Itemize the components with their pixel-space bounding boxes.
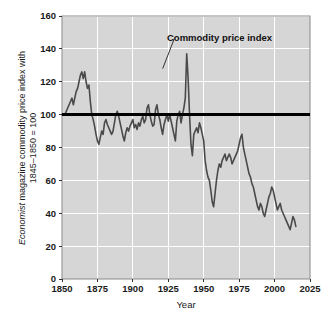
y-axis-title-italic: Economist — [17, 203, 27, 246]
y-tick-label: 60 — [45, 175, 56, 186]
x-tick-label: 2000 — [264, 283, 285, 294]
x-tick-label: 1850 — [51, 283, 72, 294]
y-tick-label: 40 — [45, 208, 56, 219]
x-tick-label: 1975 — [229, 283, 251, 294]
x-tick-label: 2025 — [299, 283, 321, 294]
x-tick-label: 1950 — [193, 283, 214, 294]
y-tick-label: 100 — [40, 109, 56, 120]
annotation-commodity-price-index: Commodity price index — [167, 32, 273, 43]
y-tick-label: 80 — [45, 142, 56, 153]
y-axis-title-rest: magazine commodity price index with — [17, 51, 27, 203]
x-tick-label: 1925 — [158, 283, 180, 294]
chart-figure: Commodity price index 020406080100120140… — [0, 0, 326, 319]
x-tick-label: 1875 — [87, 283, 109, 294]
y-tick-label: 160 — [40, 10, 56, 21]
y-tick-label: 120 — [40, 76, 56, 87]
y-axis-title-line2: 1845–1850 = 100 — [28, 113, 38, 183]
y-tick-label: 20 — [45, 241, 56, 252]
x-tick-label: 1900 — [122, 283, 143, 294]
commodity-price-index-chart: Commodity price index 020406080100120140… — [0, 0, 326, 319]
svg-text:Economist magazine commodity p: Economist magazine commodity price index… — [17, 51, 27, 245]
y-tick-label: 140 — [40, 43, 56, 54]
x-axis-title: Year — [176, 299, 195, 310]
